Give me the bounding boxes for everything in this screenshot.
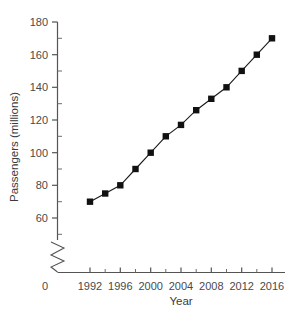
data-point-1998 xyxy=(132,166,138,172)
data-point-2000 xyxy=(148,150,154,156)
y-axis-origin-label: 0 xyxy=(42,280,48,292)
data-point-2004 xyxy=(178,122,184,128)
data-point-1992 xyxy=(87,199,93,205)
x-axis-tick-label-1996: 1996 xyxy=(108,280,132,292)
x-axis-tick-label-2008: 2008 xyxy=(199,280,223,292)
y-axis-tick-label-180: 180 xyxy=(30,16,48,28)
y-axis-break-icon xyxy=(51,242,64,272)
y-axis-title: Passengers (millions) xyxy=(8,92,20,202)
chart-canvas: 180 160 140 120 100 80 60 0 1992 1996 20… xyxy=(0,0,299,316)
data-point-2014 xyxy=(254,52,260,58)
y-axis-tick-label-100: 100 xyxy=(30,147,48,159)
data-point-2006 xyxy=(193,107,199,113)
data-point-2016 xyxy=(269,35,275,41)
y-axis-tick-label-160: 160 xyxy=(30,49,48,61)
x-axis-tick-label-2016: 2016 xyxy=(260,280,284,292)
y-axis-tick-label-120: 120 xyxy=(30,114,48,126)
x-axis-tick-label-2012: 2012 xyxy=(229,280,253,292)
data-point-2002 xyxy=(163,133,169,139)
data-point-2008 xyxy=(208,96,214,102)
passenger-growth-line-chart: 180 160 140 120 100 80 60 0 1992 1996 20… xyxy=(0,0,299,316)
x-axis-tick-label-2004: 2004 xyxy=(169,280,193,292)
series-passengers-line xyxy=(90,38,272,201)
data-point-2010 xyxy=(223,84,229,90)
data-point-2012 xyxy=(239,68,245,74)
y-axis-tick-label-140: 140 xyxy=(30,81,48,93)
data-point-1996 xyxy=(117,182,123,188)
x-axis-title: Year xyxy=(169,295,192,307)
x-axis-tick-label-2000: 2000 xyxy=(138,280,162,292)
x-axis-tick-label-1992: 1992 xyxy=(78,280,102,292)
data-point-1994 xyxy=(102,190,108,196)
y-axis-tick-label-60: 60 xyxy=(36,212,48,224)
y-axis-tick-label-80: 80 xyxy=(36,179,48,191)
